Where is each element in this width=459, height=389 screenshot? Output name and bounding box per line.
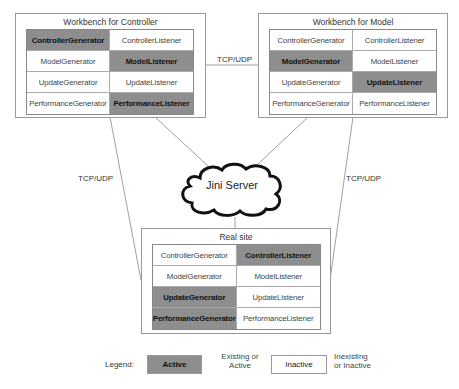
component-cell: UpdateGenerator (27, 72, 110, 93)
component-cell: ControllerListener (237, 245, 321, 266)
real-site-title: Real site (142, 232, 330, 242)
legend-inactive-description: Inexisting or Inactive (334, 352, 384, 370)
legend-active-desc-line2: Active (210, 361, 270, 370)
real-site-component-grid: ControllerGenerator ControllerListener M… (152, 244, 321, 330)
component-cell: ControllerGenerator (270, 30, 353, 51)
component-cell: UpdateListener (110, 72, 193, 93)
component-cell: UpdateGenerator (153, 287, 237, 308)
legend-inactive-label: Inactive (285, 360, 313, 369)
controller-workbench-title: Workbench for Controller (16, 17, 205, 27)
legend-inactive-swatch: Inactive (271, 355, 327, 374)
component-cell: PerformanceGenerator (270, 93, 353, 114)
legend-inactive-desc-line2: or Inactive (334, 361, 384, 370)
component-cell: PerformanceGenerator (153, 308, 237, 329)
edge-label-controller-realsite: TCP/UDP (78, 174, 113, 183)
component-cell: ControllerListener (110, 30, 193, 51)
component-cell: ModelListener (110, 51, 193, 72)
component-cell: PerformanceListener (110, 93, 193, 114)
legend-active-label: Active (162, 360, 186, 369)
model-workbench-title: Workbench for Model (259, 17, 447, 27)
component-cell: ControllerGenerator (153, 245, 237, 266)
real-site: Real site ControllerGenerator Controller… (141, 228, 331, 334)
component-cell: ControllerGenerator (27, 30, 110, 51)
component-cell: ModelListener (237, 266, 321, 287)
controller-component-grid: ControllerGenerator ControllerListener M… (26, 29, 194, 115)
model-component-grid: ControllerGenerator ControllerListener M… (269, 29, 437, 115)
legend-active-swatch: Active (147, 355, 202, 374)
component-cell: ControllerListener (353, 30, 436, 51)
edge-label-controller-model: TCP/UDP (217, 55, 252, 64)
component-cell: PerformanceListener (353, 93, 436, 114)
legend-title: Legend: (105, 360, 134, 369)
component-cell: UpdateListener (353, 72, 436, 93)
controller-workbench: Workbench for Controller ControllerGener… (15, 13, 206, 118)
component-cell: UpdateGenerator (270, 72, 353, 93)
model-workbench: Workbench for Model ControllerGenerator … (258, 13, 448, 118)
component-cell: ModelListener (353, 51, 436, 72)
legend-active-desc-line1: Existing or (210, 352, 270, 361)
component-cell: PerformanceListener (237, 308, 321, 329)
component-cell: UpdateListener (237, 287, 321, 308)
legend-inactive-desc-line1: Inexisting (334, 352, 384, 361)
component-cell: ModelGenerator (153, 266, 237, 287)
jini-server-label: Jini Server (178, 179, 286, 191)
component-cell: ModelGenerator (27, 51, 110, 72)
component-cell: ModelGenerator (270, 51, 353, 72)
edge-label-model-realsite: TCP/UDP (346, 174, 381, 183)
component-cell: PerformanceGenerator (27, 93, 110, 114)
legend-active-description: Existing or Active (210, 352, 270, 370)
